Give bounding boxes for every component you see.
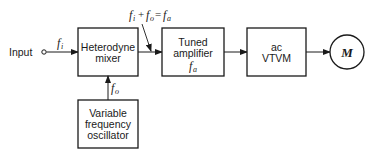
heterodyne-mixer-block: Heterodyne mixer (78, 28, 138, 76)
svg-text:a: a (193, 65, 197, 74)
variable-frequency-oscillator-block: Variable frequency oscillator (78, 100, 138, 148)
ac-vtvm-block: ac VTVM (247, 28, 306, 76)
svg-text:=: = (155, 8, 161, 20)
svg-text:i: i (61, 42, 63, 51)
input-terminal: Input f i (9, 36, 78, 58)
svg-text:o: o (115, 87, 119, 96)
svg-text:oscillator: oscillator (87, 129, 129, 141)
input-label: Input (9, 46, 32, 58)
heterodyne-block-diagram: Input f i Heterodyne mixer f i + f o = f… (0, 0, 379, 160)
svg-text:i: i (133, 14, 135, 23)
svg-text:mixer: mixer (95, 52, 121, 64)
svg-text:amplifier: amplifier (173, 47, 213, 59)
meter-label: M (340, 45, 353, 60)
meter-circle: M (330, 35, 364, 69)
tuned-amplifier-block: Tuned amplifier f a (162, 28, 224, 76)
svg-text:VTVM: VTVM (262, 52, 291, 64)
svg-text:o: o (150, 14, 154, 23)
svg-text:a: a (167, 14, 171, 23)
equation-pointer (142, 24, 151, 51)
svg-text:+: + (138, 8, 144, 20)
